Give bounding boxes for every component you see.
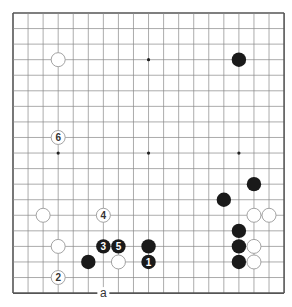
white-stone	[111, 255, 125, 269]
black-stone	[81, 255, 95, 269]
black-stone-3: 3	[96, 239, 110, 253]
white-stone	[247, 239, 261, 253]
white-stone-2: 2	[51, 271, 65, 285]
move-number: 6	[55, 132, 61, 143]
star-point	[57, 151, 60, 154]
white-stone	[247, 208, 261, 222]
move-number: 5	[116, 241, 122, 252]
star-point	[237, 151, 240, 154]
move-number: 2	[55, 272, 61, 283]
black-stone-5: 5	[111, 239, 125, 253]
white-stone	[262, 208, 276, 222]
markers-layer: a	[97, 286, 109, 300]
black-stone	[232, 52, 246, 66]
move-number: 1	[146, 257, 152, 268]
white-stone	[51, 239, 65, 253]
move-number: 4	[101, 210, 107, 221]
white-stone	[36, 208, 50, 222]
black-stone	[217, 193, 231, 207]
white-stone	[51, 53, 65, 67]
black-stone	[232, 255, 246, 269]
black-stone-1: 1	[141, 255, 155, 269]
black-stone	[247, 177, 261, 191]
white-stone	[247, 255, 261, 269]
point-marker-a: a	[100, 286, 107, 300]
black-stone	[232, 239, 246, 253]
black-stone	[141, 239, 155, 253]
white-stone-4: 4	[96, 208, 110, 222]
star-point	[147, 58, 150, 61]
go-board-diagram: 643512 a	[0, 0, 292, 307]
move-number: 3	[101, 241, 107, 252]
white-stone-6: 6	[51, 130, 65, 144]
star-point	[147, 151, 150, 154]
black-stone	[232, 224, 246, 238]
